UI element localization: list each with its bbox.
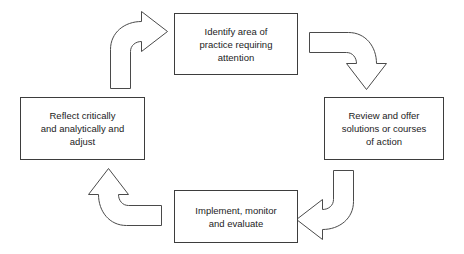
arrow-reflect-to-identify	[111, 12, 168, 89]
arrow-identify-to-review	[310, 33, 387, 90]
arrow-implement-to-reflect	[89, 169, 162, 226]
arrow-review-to-implement	[297, 171, 354, 240]
node-review-solutions[interactable]: Review and offer solutions or courses of…	[324, 97, 444, 160]
node-implement-monitor[interactable]: Implement, monitor and evaluate	[174, 190, 298, 243]
cycle-diagram: Identify area of practice requiring atte…	[0, 0, 464, 254]
node-identify-label: Identify area of practice requiring atte…	[195, 25, 278, 64]
node-implement-label: Implement, monitor and evaluate	[190, 204, 281, 230]
node-reflect-critically[interactable]: Reflect critically and analytically and …	[20, 97, 145, 160]
node-review-label: Review and offer solutions or courses of…	[337, 109, 431, 148]
node-identify-area[interactable]: Identify area of practice requiring atte…	[174, 13, 298, 75]
node-reflect-label: Reflect critically and analytically and …	[36, 109, 129, 148]
